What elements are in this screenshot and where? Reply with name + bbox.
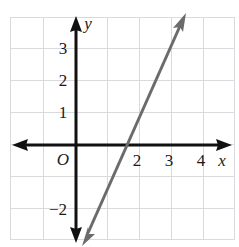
y-axis-arrow-up xyxy=(70,16,82,32)
grid-lines xyxy=(10,17,235,240)
y-tick-label-3: 3 xyxy=(59,40,68,57)
x-tick-label-4: 4 xyxy=(197,152,206,169)
x-tick-label-2: 2 xyxy=(133,152,142,169)
origin-label: O xyxy=(57,151,69,168)
y-tick-label-2: 2 xyxy=(59,72,68,89)
y-axis-label: y xyxy=(84,15,92,32)
plotted-line-series xyxy=(82,13,186,246)
y-tick-label-minus-2: −2 xyxy=(49,201,67,218)
x-tick-label-3: 3 xyxy=(165,152,174,169)
x-axis-label: x xyxy=(218,152,226,169)
y-axis-arrow-down xyxy=(70,227,82,243)
line-segment xyxy=(88,26,180,233)
y-tick-label-1: 1 xyxy=(59,104,68,121)
coordinate-plane-figure: y x O 3 2 1 −2 2 3 4 xyxy=(0,0,239,247)
x-axis-arrow-left xyxy=(12,139,28,151)
x-axis-arrow-right xyxy=(216,139,232,151)
graph-canvas xyxy=(0,0,239,247)
